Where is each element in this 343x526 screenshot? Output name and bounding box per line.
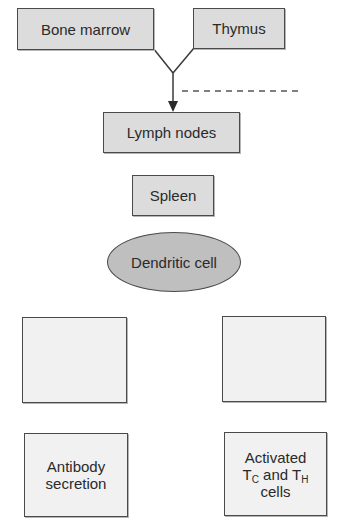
lymph-nodes-label: Lymph nodes (127, 124, 217, 141)
antibody-secretion-box: Antibody secretion (24, 433, 128, 517)
arrowhead-icon (168, 101, 178, 112)
thymus-label: Thymus (212, 20, 265, 37)
dendritic-cell-ellipse: Dendritic cell (107, 232, 241, 292)
bone-marrow-box: Bone marrow (17, 8, 154, 50)
dendritic-cell-label: Dendritic cell (131, 254, 217, 271)
lymph-nodes-box: Lymph nodes (103, 112, 240, 153)
thymus-box: Thymus (193, 8, 285, 49)
antibody-line2: secretion (46, 475, 107, 492)
spleen-box: Spleen (132, 175, 214, 216)
activated-t-cells-box: Activated TC and TH cells (224, 432, 327, 516)
activated-line1: Activated (245, 449, 307, 466)
spleen-label: Spleen (150, 187, 197, 204)
bone-marrow-label: Bone marrow (41, 21, 130, 38)
blank-box-left (22, 317, 127, 403)
blank-box-right (222, 316, 326, 402)
activated-line2: TC and TH (243, 466, 309, 483)
activated-line3: cells (260, 483, 290, 500)
antibody-line1: Antibody (47, 458, 105, 475)
